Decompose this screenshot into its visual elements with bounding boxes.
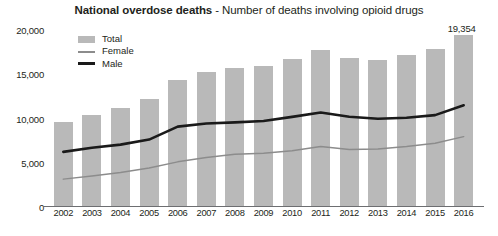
chart-legend: Total Female Male [78, 33, 134, 70]
x-tick-label: 2006 [163, 208, 192, 218]
x-tick-label: 2009 [249, 208, 278, 218]
x-tick-label: 2011 [306, 208, 335, 218]
legend-line-male-icon [78, 62, 95, 65]
chart-title-subtitle: Number of deaths involving opioid drugs [222, 4, 423, 16]
x-axis: 2002200320042005200620072008200920102011… [49, 208, 478, 218]
chart-caption [0, 228, 498, 236]
x-tick-label: 2008 [221, 208, 250, 218]
chart-title-bold: National overdose deaths [75, 4, 213, 16]
chart-title-separator: - [212, 4, 222, 16]
y-tick-label: 0 [39, 202, 44, 213]
y-tick-label: 5,000 [21, 157, 44, 168]
y-tick-label: 10,000 [16, 113, 44, 124]
x-tick-label: 2016 [449, 208, 478, 218]
total-2016-value-label: 19,354 [448, 23, 476, 34]
x-tick-label: 2005 [135, 208, 164, 218]
legend-swatch-total-icon [78, 36, 95, 43]
legend-label-female: Female [102, 45, 134, 57]
x-tick-label: 2010 [278, 208, 307, 218]
x-tick-label: 2007 [192, 208, 221, 218]
legend-item-female: Female [78, 45, 134, 57]
legend-label-male: Male [102, 58, 123, 70]
y-tick-label: 15,000 [16, 69, 44, 80]
x-tick-label: 2015 [421, 208, 450, 218]
x-tick-label: 2014 [392, 208, 421, 218]
legend-item-total: Total [78, 33, 134, 45]
x-tick-label: 2012 [335, 208, 364, 218]
legend-item-male: Male [78, 58, 134, 70]
x-tick-label: 2002 [49, 208, 78, 218]
x-tick-label: 2004 [106, 208, 135, 218]
y-tick-label: 20,000 [16, 25, 44, 36]
x-tick-label: 2013 [364, 208, 393, 218]
overdose-deaths-chart: National overdose deaths - Number of dea… [0, 0, 498, 236]
axis-baseline [43, 206, 484, 207]
legend-label-total: Total [102, 33, 122, 45]
chart-title: National overdose deaths - Number of dea… [0, 4, 498, 16]
legend-line-female-icon [78, 51, 95, 53]
x-tick-label: 2003 [78, 208, 107, 218]
line-male [63, 105, 463, 152]
